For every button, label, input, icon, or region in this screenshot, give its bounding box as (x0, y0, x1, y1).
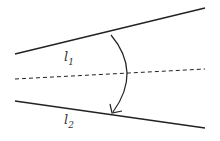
label-l2: l2 (64, 113, 74, 130)
line-l1 (15, 8, 205, 54)
label-l1: l1 (64, 50, 74, 67)
bisector-dashed-line (15, 69, 205, 79)
label-l2-sub: 2 (68, 120, 74, 130)
label-l1-sub: 1 (68, 57, 74, 67)
diagram-canvas (0, 0, 220, 141)
